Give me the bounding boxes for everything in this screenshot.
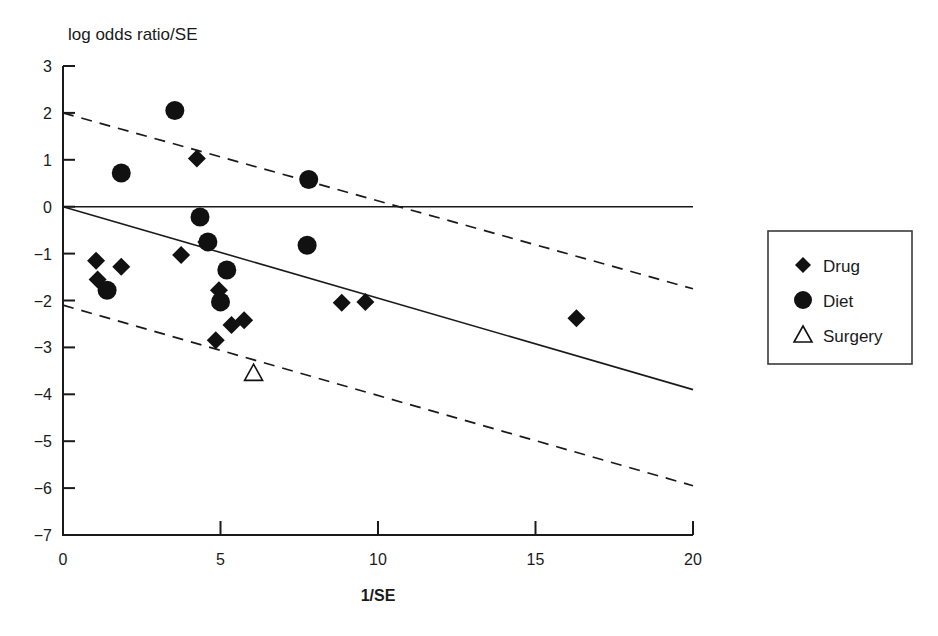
y-tick-label: 0: [43, 199, 52, 216]
data-point-diet[interactable]: [299, 170, 318, 189]
y-tick-label: −6: [34, 480, 52, 497]
y-axis-ticks: [63, 66, 75, 535]
y-tick-label: 2: [43, 105, 52, 122]
x-axis-ticks: [63, 521, 693, 535]
data-point-diet[interactable]: [298, 236, 317, 255]
data-point-drug[interactable]: [188, 149, 206, 167]
y-tick-label: −4: [34, 386, 52, 403]
legend-label: Drug: [823, 257, 860, 276]
y-tick-label: −7: [34, 527, 52, 544]
x-axis-tick-labels: 0 5 10 15 20: [59, 551, 702, 568]
data-point-diet[interactable]: [98, 281, 117, 300]
x-axis-title: 1/SE: [361, 587, 396, 604]
data-point-surgery[interactable]: [245, 364, 263, 380]
legend: Drug Diet Surgery: [768, 231, 912, 364]
legend-label: Surgery: [823, 327, 883, 346]
filled-circle-icon: [794, 291, 812, 309]
data-markers-group: [87, 101, 585, 380]
series-drug: [87, 149, 585, 349]
data-point-diet[interactable]: [112, 163, 131, 182]
data-point-drug[interactable]: [112, 258, 130, 276]
x-tick-label: 20: [684, 551, 702, 568]
data-point-drug[interactable]: [567, 309, 585, 327]
x-tick-label: 5: [216, 551, 225, 568]
y-axis-tick-labels: 3 2 1 0 −1 −2 −3 −4 −5 −6 −7: [34, 58, 52, 544]
funnel-plot-figure: log odds ratio/SE 3 2 1 0 −1 −2 −3 −4: [0, 0, 938, 636]
data-point-diet[interactable]: [211, 292, 230, 311]
y-tick-label: −1: [34, 246, 52, 263]
scatter-plot-svg: log odds ratio/SE 3 2 1 0 −1 −2 −3 −4: [0, 0, 938, 636]
legend-label: Diet: [823, 292, 854, 311]
data-point-diet[interactable]: [198, 232, 217, 251]
data-point-diet[interactable]: [217, 261, 236, 280]
data-point-drug[interactable]: [172, 246, 190, 264]
x-tick-label: 0: [59, 551, 68, 568]
y-axis-title: log odds ratio/SE: [68, 25, 197, 44]
data-point-drug[interactable]: [333, 294, 351, 312]
y-tick-label: −3: [34, 339, 52, 356]
y-tick-label: −2: [34, 293, 52, 310]
upper-confidence-bound: [63, 113, 693, 289]
series-surgery: [245, 364, 263, 380]
y-tick-label: 3: [43, 58, 52, 75]
lower-confidence-bound: [63, 305, 693, 486]
reference-lines-group: [63, 113, 693, 486]
x-tick-label: 15: [527, 551, 545, 568]
data-point-diet[interactable]: [191, 208, 210, 227]
y-tick-label: −5: [34, 433, 52, 450]
regression-fit-line: [63, 207, 693, 390]
legend-item-diet[interactable]: Diet: [794, 291, 854, 311]
data-point-drug[interactable]: [87, 252, 105, 270]
plot-axes: [63, 66, 693, 535]
x-tick-label: 10: [369, 551, 387, 568]
data-point-diet[interactable]: [165, 101, 184, 120]
y-tick-label: 1: [43, 152, 52, 169]
